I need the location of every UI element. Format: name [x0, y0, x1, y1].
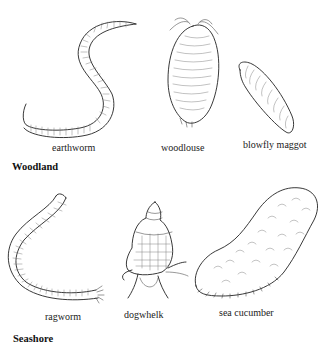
label-dogwhelk: dogwhelk — [124, 309, 163, 320]
label-earthworm: earthworm — [52, 142, 95, 153]
label-sea-cucumber: sea cucumber — [219, 307, 274, 318]
earthworm-illustration — [23, 21, 136, 138]
dogwhelk-illustration — [122, 202, 188, 298]
label-ragworm: ragworm — [45, 311, 81, 322]
section-title-seashore: Seashore — [13, 333, 53, 344]
section-title-woodland: Woodland — [12, 161, 58, 172]
sea-cucumber-illustration — [195, 188, 317, 298]
label-woodlouse: woodlouse — [161, 142, 204, 153]
label-blowfly-maggot: blowfly maggot — [243, 139, 307, 150]
blowfly-maggot-illustration — [239, 62, 294, 133]
ragworm-illustration — [8, 194, 104, 303]
animal-illustrations — [0, 0, 326, 348]
woodlouse-illustration — [168, 18, 219, 127]
